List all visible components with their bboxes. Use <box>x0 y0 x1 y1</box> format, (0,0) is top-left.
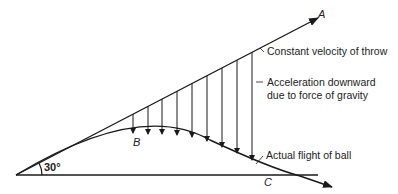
label-point-c: C <box>264 176 272 188</box>
gravity-arrows <box>133 52 252 160</box>
label-acceleration-line2: due to force of gravity <box>267 89 368 101</box>
label-angle: 30° <box>44 161 61 173</box>
label-point-a: A <box>318 8 325 20</box>
leader-velocity <box>260 48 264 52</box>
label-point-b: B <box>133 136 140 148</box>
label-acceleration-line1: Acceleration downward <box>267 76 376 88</box>
label-actual-flight: Actual flight of ball <box>266 149 351 161</box>
angle-arc <box>39 163 42 175</box>
label-constant-velocity: Constant velocity of throw <box>267 45 387 57</box>
